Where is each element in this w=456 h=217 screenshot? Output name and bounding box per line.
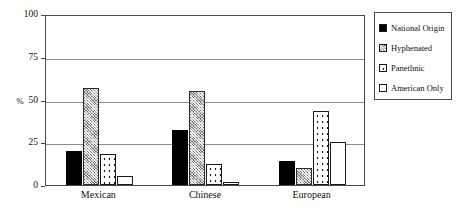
y-tick-label-75: 75 [8,53,38,63]
bar-chinese-national-origin [172,130,188,185]
legend-swatch-panethnic [379,64,387,72]
bar-european-american-only [330,142,346,185]
x-axis-labels: MexicanChineseEuropean [45,189,365,211]
legend-item: Hyphenated [379,38,451,58]
bar-group-mexican [46,16,153,185]
legend-item: National Origin [379,18,451,38]
legend-label: National Origin [391,24,445,33]
y-tick-label-0: 0 [8,181,38,191]
legend-item: American Only [379,78,451,98]
x-axis-label-chinese: Chinese [152,189,259,200]
y-tick-label-25: 25 [8,138,38,148]
bar-european-panethnic [313,111,329,185]
bar-chinese-panethnic [206,164,222,185]
legend-label: American Only [391,84,444,93]
x-axis-label-mexican: Mexican [45,189,152,200]
bar-groups [46,16,364,185]
legend-label: Panethnic [391,64,425,73]
bar-mexican-american-only [117,176,133,185]
y-tick-mark [41,186,45,187]
y-tick-label-100: 100 [8,10,38,20]
legend-swatch-national-origin [379,24,387,32]
plot-area [45,15,365,186]
bar-mexican-national-origin [66,151,82,185]
y-tick-label-50: 50 [8,96,38,106]
bar-mexican-hyphenated [83,88,99,185]
y-axis: % 100 75 50 25 0 [0,0,44,217]
legend: National Origin Hyphenated Panethnic Ame… [374,12,452,100]
x-axis-label-european: European [258,189,365,200]
legend-item: Panethnic [379,58,451,78]
legend-label: Hyphenated [391,44,432,53]
legend-swatch-hyphenated [379,44,387,52]
legend-swatch-american-only [379,84,387,92]
bar-chinese-hyphenated [189,91,205,185]
bar-european-hyphenated [296,168,312,185]
bar-chinese-american-only [223,182,239,185]
bar-mexican-panethnic [100,154,116,185]
bar-group-chinese [153,16,260,185]
bar-chart-figure: % 100 75 50 25 0 MexicanChineseEuropean … [0,0,456,217]
bar-group-european [259,16,366,185]
bar-european-national-origin [279,161,295,185]
